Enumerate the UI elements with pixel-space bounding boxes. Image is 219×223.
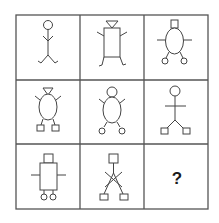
triangle-head-icon <box>106 21 118 28</box>
cell-r1c3-oval-figure <box>157 20 192 64</box>
cell-r2c2-oval-figure <box>99 87 125 134</box>
square-head-icon <box>44 154 53 163</box>
cell-r3c2-stick-figure <box>100 154 128 200</box>
cell-r3c3-missing[interactable]: ? <box>172 169 182 188</box>
cell-r1c1-stick-figure <box>38 21 58 64</box>
cell-r2c1-oval-figure <box>35 88 61 131</box>
cell-r3c1-rectangle-figure <box>31 154 66 200</box>
question-mark: ? <box>172 169 182 188</box>
square-head-icon <box>171 20 178 28</box>
circle-head-icon <box>107 87 117 97</box>
square-head-icon <box>109 154 118 163</box>
circle-head-icon <box>44 21 53 30</box>
cell-r1c2-rectangle-figure <box>97 21 127 66</box>
circle-head-icon <box>170 86 180 96</box>
figure-matrix-puzzle: ? <box>0 0 219 223</box>
cell-r2c3-stick-figure <box>161 86 190 134</box>
